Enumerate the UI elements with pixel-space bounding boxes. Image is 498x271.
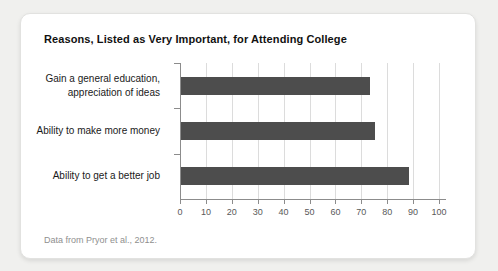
x-tick-label: 10	[201, 207, 211, 217]
x-tick-label: 60	[330, 207, 340, 217]
x-tick-label: 30	[253, 207, 263, 217]
data-source-note: Data from Pryor et al., 2012.	[44, 235, 157, 245]
bar	[181, 77, 370, 95]
x-axis-tick	[232, 200, 233, 204]
x-tick-label: 0	[177, 207, 182, 217]
plot-area	[180, 63, 440, 199]
category-label: Ability to make more money	[21, 108, 170, 153]
bar	[181, 167, 409, 185]
category-label: Ability to get a better job	[21, 154, 170, 199]
x-axis-tick	[335, 200, 336, 204]
x-tick-label: 100	[431, 207, 446, 217]
x-axis-tick	[413, 200, 414, 204]
x-axis-tick	[361, 200, 362, 204]
x-axis-line	[180, 199, 446, 200]
x-tick-label: 70	[356, 207, 366, 217]
x-tick-label: 20	[227, 207, 237, 217]
x-tick-label: 40	[279, 207, 289, 217]
x-axis-tick	[284, 200, 285, 204]
x-axis-tick	[180, 200, 181, 204]
x-axis-tick	[206, 200, 207, 204]
x-tick-label: 50	[304, 207, 314, 217]
x-axis-tick	[258, 200, 259, 204]
chart-card: Reasons, Listed as Very Important, for A…	[20, 13, 476, 259]
bar	[181, 122, 375, 140]
x-axis-tick	[387, 200, 388, 204]
bar-row	[181, 63, 440, 108]
y-axis-tick	[174, 63, 180, 64]
x-tick-label: 80	[382, 207, 392, 217]
bar-row	[181, 108, 440, 153]
bar-row	[181, 154, 440, 199]
category-labels-column: Gain a general education, appreciation o…	[21, 63, 170, 199]
x-axis-tick	[310, 200, 311, 204]
y-axis-tick	[174, 154, 180, 155]
chart-title: Reasons, Listed as Very Important, for A…	[44, 33, 347, 45]
x-tick-label: 90	[408, 207, 418, 217]
category-label: Gain a general education, appreciation o…	[21, 63, 170, 108]
y-axis-tick	[174, 108, 180, 109]
x-axis-tick	[439, 200, 440, 204]
